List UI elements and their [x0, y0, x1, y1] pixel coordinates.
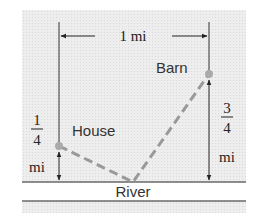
- diagram-svg: 1 mi 1 4 mi 3 4 mi House Barn River: [0, 0, 260, 217]
- left-dimension-unit: mi: [29, 159, 45, 175]
- right-fraction-denominator: 4: [223, 120, 231, 136]
- right-fraction-numerator: 3: [223, 100, 231, 116]
- barn-point: [205, 70, 213, 78]
- barn-label: Barn: [156, 59, 188, 76]
- right-dimension-unit: mi: [219, 149, 235, 165]
- diagram-canvas: 1 mi 1 4 mi 3 4 mi House Barn River: [0, 0, 260, 217]
- left-fraction-denominator: 4: [33, 132, 41, 148]
- left-fraction-numerator: 1: [33, 112, 41, 128]
- house-point: [55, 142, 63, 150]
- house-label: House: [72, 122, 115, 139]
- top-dimension-label: 1 mi: [119, 28, 146, 44]
- river-label: River: [115, 183, 150, 200]
